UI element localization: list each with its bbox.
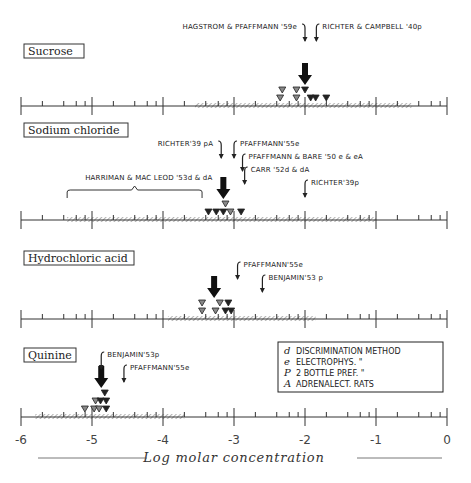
reference-label: RICHTER'39p — [311, 179, 359, 187]
reference-label: RICHTER & CAMPBELL '40p — [322, 23, 422, 31]
reference-arrowhead — [303, 193, 308, 198]
threshold-marker — [279, 87, 286, 93]
threshold-marker — [103, 398, 110, 404]
bracket-label: HARRIMAN & MAC LEOD '53d & dA — [85, 174, 212, 182]
legend-key: P — [283, 367, 291, 378]
threshold-marker — [293, 95, 300, 101]
reference-arrowhead — [303, 37, 308, 42]
panel-sucrose: SucroseHAGSTROM & PFAFFMANN '59eRICHTER … — [21, 23, 447, 115]
threshold-marker — [277, 95, 284, 101]
threshold-marker — [216, 300, 223, 306]
threshold-marker — [312, 95, 319, 101]
threshold-marker — [293, 87, 300, 93]
reference-label: BENJAMIN'53 p — [268, 274, 323, 282]
reference-arrowhead — [235, 275, 240, 280]
x-tick-label: 0 — [443, 433, 451, 447]
median-arrow — [207, 276, 221, 298]
threshold-marker — [199, 300, 206, 306]
median-arrow — [216, 177, 230, 199]
reference-label: HAGSTROM & PFAFFMANN '59e — [182, 23, 297, 31]
legend-text: ELECTROPHYS. " — [296, 358, 362, 367]
threshold-marker — [323, 95, 330, 101]
panel-sodium-chloride: Sodium chlorideHARRIMAN & MAC LEOD '53d … — [21, 123, 447, 229]
threshold-marker — [205, 209, 212, 215]
panel-title: Quinine — [28, 349, 72, 362]
legend-key: A — [283, 378, 291, 389]
threshold-marker — [220, 209, 227, 215]
legend-key: e — [284, 356, 290, 367]
threshold-chart: SucroseHAGSTROM & PFAFFMANN '59eRICHTER … — [0, 0, 471, 483]
x-tick-label: -1 — [370, 433, 382, 447]
reference-label: PFAFFMANN'55e — [240, 140, 300, 148]
panel-title: Hydrochloric acid — [28, 252, 128, 265]
x-tick-label: -3 — [228, 433, 240, 447]
reference-arrowhead — [314, 37, 319, 42]
reference-arrowhead — [219, 154, 224, 159]
threshold-marker — [302, 87, 309, 93]
x-tick-label: -2 — [299, 433, 311, 447]
legend-text: DISCRIMINATION METHOD — [296, 347, 401, 356]
threshold-marker — [212, 308, 219, 314]
x-tick-label: -5 — [86, 433, 98, 447]
reference-arrowhead — [121, 378, 126, 383]
threshold-marker — [222, 201, 229, 207]
legend-text: ADRENALECT. RATS — [296, 380, 374, 389]
reference-arrowhead — [232, 154, 237, 159]
figure: SucroseHAGSTROM & PFAFFMANN '59eRICHTER … — [0, 0, 471, 483]
reference-arrowhead — [260, 288, 265, 293]
reference-label: RICHTER'39 pA — [158, 140, 214, 148]
panel-hydrochloric-acid: Hydrochloric acidPFAFFMANN'55eBENJAMIN'5… — [21, 251, 447, 328]
threshold-marker — [101, 390, 108, 396]
threshold-marker — [213, 209, 220, 215]
legend: dDISCRIMINATION METHODeELECTROPHYS. "P2 … — [278, 342, 443, 392]
x-tick-label: -4 — [157, 433, 169, 447]
legend-text: 2 BOTTLE PREF. " — [296, 369, 364, 378]
x-axis-label: Log molar concentration — [142, 450, 324, 465]
reference-label: PFAFFMANN'55e — [130, 364, 190, 372]
legend-key: d — [284, 345, 290, 356]
bracket — [67, 186, 202, 198]
threshold-marker — [238, 209, 245, 215]
panel-title: Sodium chloride — [28, 124, 119, 137]
threshold-marker — [199, 308, 206, 314]
threshold-marker — [227, 209, 234, 215]
reference-label: BENJAMIN'53p — [107, 351, 160, 359]
x-tick-label: -6 — [15, 433, 27, 447]
reference-label: CARR '52d & dA — [251, 166, 310, 174]
threshold-marker — [225, 300, 232, 306]
threshold-marker — [96, 406, 103, 412]
threshold-marker — [103, 406, 110, 412]
reference-label: PFAFFMANN & BARE '50 e & eA — [249, 153, 364, 161]
panel-title: Sucrose — [28, 45, 73, 58]
reference-label: PFAFFMANN'55e — [244, 261, 303, 269]
reference-arrowhead — [242, 180, 247, 185]
threshold-marker — [81, 406, 88, 412]
median-arrow — [298, 63, 312, 85]
